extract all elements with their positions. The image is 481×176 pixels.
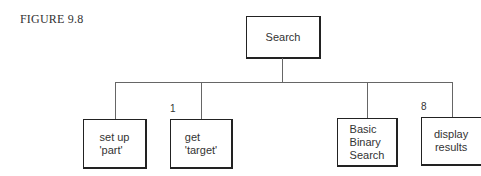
basic-binary-search-box: Basic Binary Search xyxy=(337,118,398,167)
search-root-label: Search xyxy=(266,31,301,44)
step-number-8: 8 xyxy=(421,101,427,112)
display-results-label: display results xyxy=(434,128,468,154)
drop-connector-1 xyxy=(115,82,116,119)
drop-connector-2 xyxy=(201,82,202,119)
horizontal-bus xyxy=(115,82,453,83)
basic-binary-search-label: Basic Binary Search xyxy=(350,123,385,162)
root-connector xyxy=(282,58,283,82)
get-target-label: get 'target' xyxy=(185,131,217,157)
setup-part-box: set up 'part' xyxy=(83,119,147,169)
drop-connector-3 xyxy=(367,82,368,118)
get-target-box: get 'target' xyxy=(170,119,233,169)
search-root-box: Search xyxy=(246,16,321,59)
figure-label: FIGURE 9.8 xyxy=(20,12,83,27)
setup-part-label: set up 'part' xyxy=(100,131,130,157)
step-number-1: 1 xyxy=(170,103,176,114)
drop-connector-4 xyxy=(452,82,453,117)
display-results-box: display results xyxy=(421,117,481,166)
